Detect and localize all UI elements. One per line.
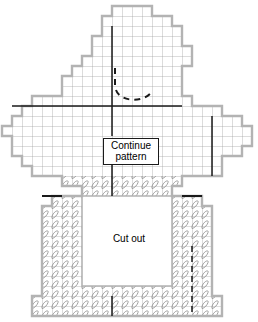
continue-pattern-line-1: Continue: [106, 140, 156, 151]
pattern-chart-canvas: Continue pattern Cut out: [0, 0, 258, 322]
cut-out-label: Cut out: [96, 233, 162, 244]
continue-pattern-line-2: pattern: [106, 151, 156, 162]
continue-pattern-label: Continue pattern: [103, 138, 159, 165]
